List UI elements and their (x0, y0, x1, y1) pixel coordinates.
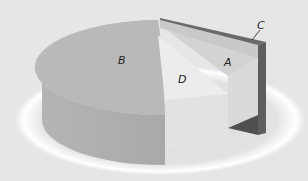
label-a: A (223, 56, 232, 69)
slice-d-side (165, 94, 228, 148)
label-b: B (118, 54, 126, 67)
label-d: D (178, 73, 186, 86)
label-c: C (257, 19, 265, 32)
slice-c (258, 42, 266, 135)
pie-chart: B D A C (0, 0, 308, 181)
